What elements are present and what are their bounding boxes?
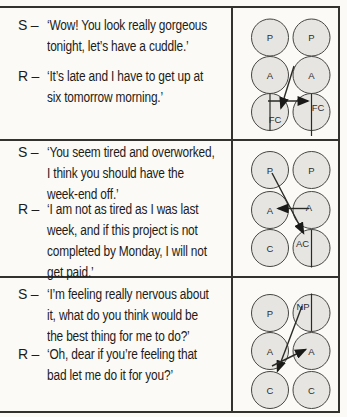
quote-line: ‘You seem tired and overworked, bbox=[47, 142, 215, 163]
ego-label: P bbox=[308, 165, 314, 176]
quote-text: ‘I am not as tired as I was last week, a… bbox=[47, 199, 235, 283]
quote-line: week, and if this project is not bbox=[47, 220, 207, 241]
ego-label: NP bbox=[296, 301, 309, 312]
ego-label: FC bbox=[312, 102, 325, 113]
speaker-label: R – bbox=[18, 199, 47, 220]
ego-label: A bbox=[308, 70, 315, 81]
ego-label: A bbox=[267, 205, 274, 216]
quote-line: ‘It’s late and I have to get up at bbox=[47, 66, 203, 87]
quote-line: ‘Wow! You look really gorgeous bbox=[47, 15, 207, 36]
quote-line: get paid.’ bbox=[47, 262, 207, 283]
speaker-label: S – bbox=[18, 142, 47, 163]
quote-text: ‘It’s late and I have to get up at six t… bbox=[47, 66, 231, 108]
ego-label: FC bbox=[269, 114, 282, 125]
row3-stimulus-quote: S – ‘I’m feeling really nervous about it… bbox=[18, 284, 237, 347]
quote-line: ‘I am not as tired as I was last bbox=[47, 199, 207, 220]
speaker-label: R – bbox=[18, 344, 47, 365]
ego-label: P bbox=[267, 308, 273, 319]
row2-ego-state-diagram: P P A A C AC bbox=[232, 140, 339, 277]
row1-response-quote: R – ‘It’s late and I have to get up at s… bbox=[18, 66, 231, 108]
quote-line: it, what do you think would be bbox=[47, 305, 209, 326]
ego-label: P bbox=[267, 165, 273, 176]
quote-text: ‘Wow! You look really gorgeous tonight, … bbox=[47, 15, 235, 57]
speaker-label: S – bbox=[18, 15, 47, 36]
quote-line: ‘I’m feeling really nervous about bbox=[47, 284, 209, 305]
ego-label: A bbox=[308, 346, 315, 357]
row3-ego-state-diagram: P NP A A C C bbox=[232, 277, 339, 412]
ego-label: P bbox=[267, 32, 273, 43]
ego-label: A bbox=[267, 346, 274, 357]
ego-label: AC bbox=[296, 238, 309, 249]
row2-response-quote: R – ‘I am not as tired as I was last wee… bbox=[18, 199, 235, 283]
ego-label: C bbox=[267, 243, 274, 254]
row3-response-quote: R – ‘Oh, dear if you’re feeling that bad… bbox=[18, 344, 223, 386]
ego-label: C bbox=[308, 385, 315, 396]
quote-line: six tomorrow morning.’ bbox=[47, 87, 203, 108]
quote-line: completed by Monday, I will not bbox=[47, 241, 207, 262]
ego-label: C bbox=[267, 385, 274, 396]
ta-transactions-figure: S – ‘Wow! You look really gorgeous tonig… bbox=[0, 0, 347, 417]
speaker-label: R – bbox=[18, 66, 47, 87]
quote-line: I think you should have the bbox=[47, 163, 215, 184]
quote-line: tonight, let’s have a cuddle.’ bbox=[47, 36, 207, 57]
ego-label: A bbox=[306, 202, 313, 213]
ego-label: A bbox=[267, 70, 274, 81]
row1-stimulus-quote: S – ‘Wow! You look really gorgeous tonig… bbox=[18, 15, 235, 57]
speaker-label: S – bbox=[18, 284, 47, 305]
quote-line: bad let me do it for you?’ bbox=[47, 365, 197, 386]
row1-ego-state-diagram: P P A A FC FC bbox=[232, 7, 339, 140]
row2-stimulus-quote: S – ‘You seem tired and overworked, I th… bbox=[18, 142, 244, 205]
quote-text: ‘I’m feeling really nervous about it, wh… bbox=[47, 284, 237, 347]
ego-label: P bbox=[308, 32, 314, 43]
quote-text: ‘You seem tired and overworked, I think … bbox=[47, 142, 244, 205]
quote-line: ‘Oh, dear if you’re feeling that bbox=[47, 344, 197, 365]
quote-text: ‘Oh, dear if you’re feeling that bad let… bbox=[47, 344, 223, 386]
